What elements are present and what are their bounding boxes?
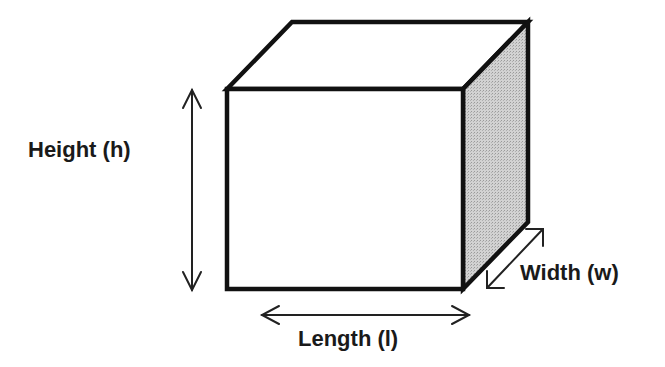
width-label: Width (w)	[520, 260, 619, 285]
cube-front-face	[227, 89, 463, 289]
height-label: Height (h)	[28, 137, 131, 162]
box-diagram: Height (h) Length (l) Width (w)	[0, 0, 665, 367]
length-label: Length (l)	[298, 326, 398, 351]
length-arrow-icon	[262, 306, 469, 324]
height-arrow-icon	[183, 90, 201, 290]
